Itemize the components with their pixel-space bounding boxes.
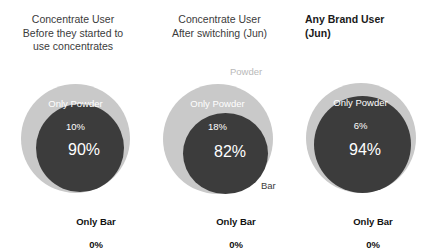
only-bar-label: Only Bar [76,216,116,227]
venn-panel-after: Concentrate User After switching (Jun) P… [146,0,293,239]
venn-panel-before: Concentrate User Before they started to … [0,0,146,239]
only-bar-value: 0% [366,239,380,250]
only-bar-value: 0% [229,239,243,250]
both-value: 90% [56,141,112,159]
only-powder-label: Only Powder [333,97,387,108]
panel-title: Any Brand User (Jun) [305,13,435,40]
only-powder-value: 18% [208,121,227,132]
only-bar-label-group: Only Bar 0% [198,204,274,250]
callout-powder-label: Powder [230,66,262,77]
both-value: 94% [337,141,393,159]
only-powder-label: Only Powder [48,98,102,109]
panel-title: Concentrate User After switching (Jun) [146,13,293,40]
panel-title: Concentrate User Before they started to … [0,13,146,54]
only-powder-label-group: Only Powder 10% [26,86,125,132]
only-bar-label: Only Bar [353,216,393,227]
only-bar-label-group: Only Bar 0% [58,204,134,250]
only-powder-label: Only Powder [190,98,244,109]
only-powder-label-group: Only Powder 6% [311,85,410,131]
only-powder-value: 10% [66,121,85,132]
only-powder-value: 6% [354,120,368,131]
only-powder-label-group: Only Powder 18% [168,86,267,132]
venn-panel-any-brand: Any Brand User (Jun) Only Powder 6% 94% … [293,0,437,239]
only-bar-value: 0% [89,239,103,250]
only-bar-label-group: Only Bar 0% [335,204,411,250]
only-bar-label: Only Bar [216,216,256,227]
both-value: 82% [202,143,258,161]
callout-bar-label: Bar [261,180,276,191]
